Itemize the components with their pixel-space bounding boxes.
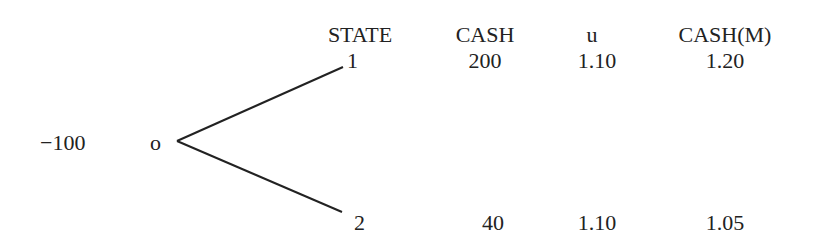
branch-up [177, 67, 343, 141]
header-u: u [567, 24, 617, 46]
header-cash: CASH [440, 24, 530, 46]
root-node: o [150, 132, 161, 154]
state-1: 1 [347, 50, 358, 72]
cash-2: 40 [448, 212, 538, 234]
cash-m-2: 1.05 [690, 212, 760, 234]
header-cash-m: CASH(M) [660, 24, 790, 46]
u-2: 1.10 [562, 212, 632, 234]
header-state: STATE [305, 24, 415, 46]
branch-down [177, 141, 342, 212]
cash-1: 200 [440, 50, 530, 72]
root-value: −100 [40, 132, 85, 154]
state-2: 2 [354, 212, 365, 234]
u-1: 1.10 [562, 50, 632, 72]
cash-m-1: 1.20 [690, 50, 760, 72]
